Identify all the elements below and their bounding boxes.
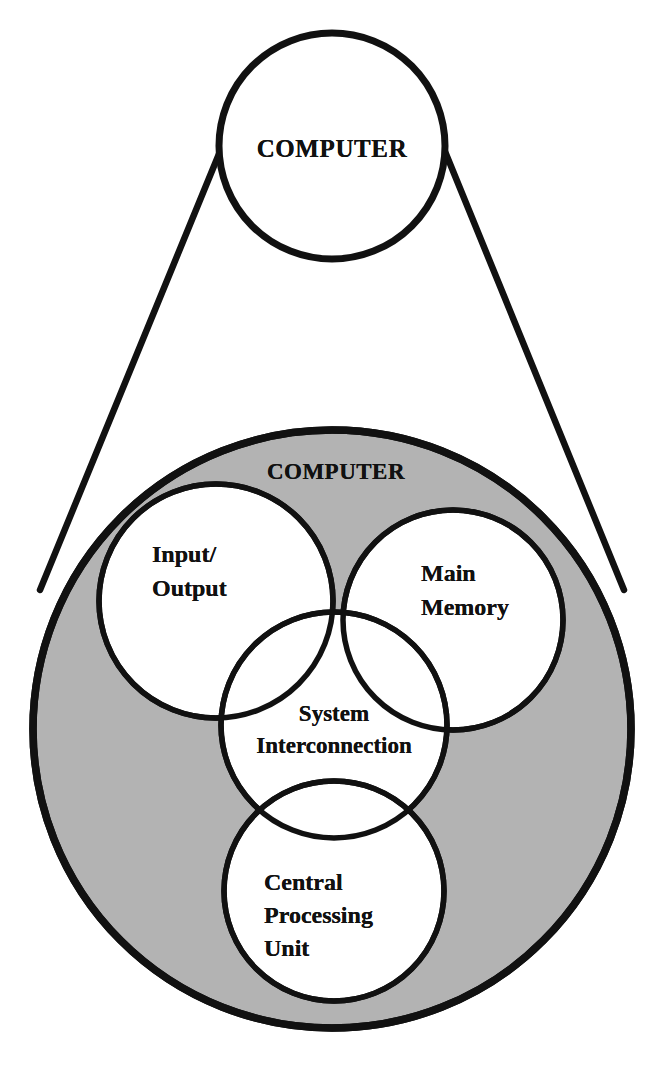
overview-computer-label-overlay: COMPUTER	[257, 135, 408, 162]
input-output-label-line1-overlay: Input/	[152, 541, 216, 567]
cpu-label-line1-overlay: Central	[264, 869, 343, 895]
cpu-label-line3-overlay: Unit	[264, 935, 309, 961]
system-interconnection-label-line2-overlay: Interconnection	[256, 733, 412, 758]
diagram-root: COMPUTER COMPUTER Input/ Output Main Mem…	[0, 0, 665, 1066]
detail-computer-label-overlay: COMPUTER	[267, 459, 405, 484]
system-interconnection-label-line1-overlay: System	[299, 701, 369, 726]
computer-structure-diagram: COMPUTER COMPUTER Input/ Output Main Mem…	[0, 0, 665, 1066]
cpu-label-line2-overlay: Processing	[264, 902, 373, 928]
input-output-label-line2-overlay: Output	[152, 575, 227, 601]
main-memory-label-line1-overlay: Main	[421, 560, 476, 586]
main-memory-label-line2-overlay: Memory	[421, 594, 509, 620]
